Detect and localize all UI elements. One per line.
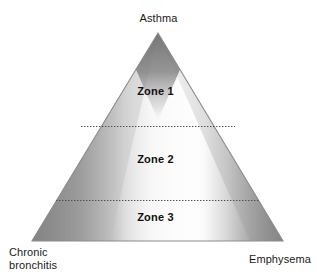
triangle-graphic [0, 0, 317, 275]
pyramid-diagram: Asthma Chronicbronchitis Emphysema Zone … [0, 0, 317, 275]
triangle-fill [32, 33, 283, 241]
zone-label-zone-3: Zone 3 [0, 211, 314, 223]
zone-label-zone-1: Zone 1 [0, 85, 314, 97]
zone-label-zone-2: Zone 2 [0, 153, 314, 165]
vertex-label-asthma: Asthma [0, 12, 317, 25]
vertex-label-emphysema: Emphysema [0, 253, 311, 266]
